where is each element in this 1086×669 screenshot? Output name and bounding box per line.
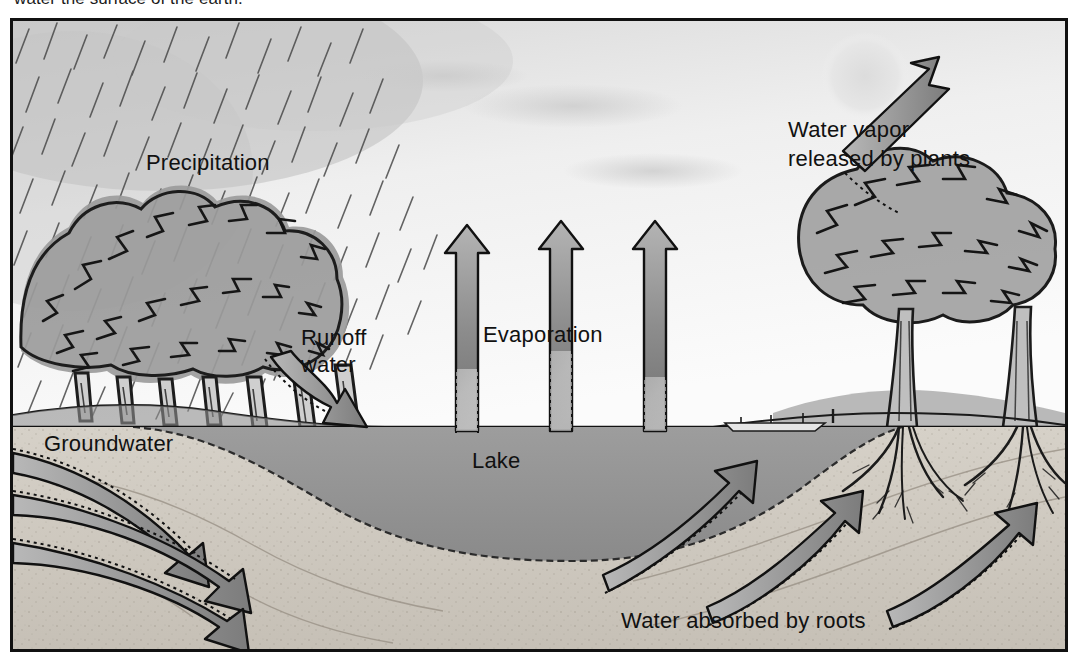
label-water-vapor-line1: Water vapor [788, 116, 909, 143]
illustration-frame: Precipitation Water vapor released by pl… [10, 18, 1068, 652]
label-water-absorbed-by-roots: Water absorbed by roots [621, 607, 866, 634]
label-precipitation: Precipitation [146, 149, 270, 176]
label-runoff-line1: Runoff [301, 324, 367, 351]
label-water-vapor-line2: released by plants [788, 145, 970, 172]
label-runoff-line2: water [301, 351, 356, 378]
figure-caption: water the surface of the earth. [14, 0, 243, 9]
label-groundwater: Groundwater [44, 430, 173, 457]
label-evaporation: Evaporation [483, 321, 603, 348]
water-cycle-figure: water the surface of the earth. [0, 0, 1086, 669]
label-lake: Lake [472, 447, 521, 474]
